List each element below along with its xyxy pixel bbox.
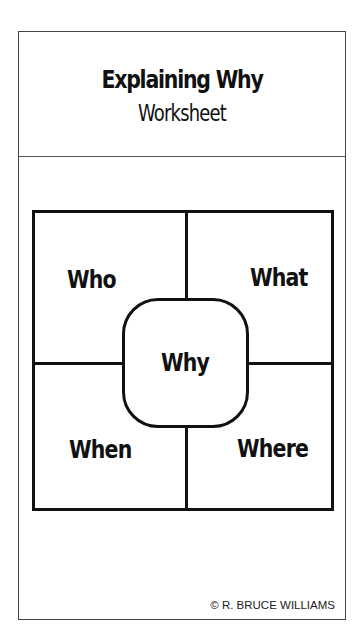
worksheet-header: Explaining Why Worksheet	[19, 32, 345, 157]
five-w-diagram: Who What When Where Why	[32, 210, 334, 511]
why-center-box: Why	[122, 298, 249, 428]
quadrant-where-label: Where	[237, 434, 308, 463]
copyright-text: © R. BRUCE WILLIAMS	[210, 599, 335, 611]
divider-left	[35, 362, 125, 365]
divider-right	[246, 362, 331, 365]
quadrant-when-label: When	[69, 435, 131, 464]
worksheet-subtitle: Worksheet	[55, 100, 309, 126]
worksheet-title: Explaining Why	[48, 65, 315, 94]
center-why-label: Why	[161, 348, 209, 377]
quadrant-who-label: Who	[67, 265, 116, 294]
divider-bottom	[185, 425, 188, 508]
quadrant-what-label: What	[250, 263, 308, 292]
divider-top	[185, 213, 188, 301]
